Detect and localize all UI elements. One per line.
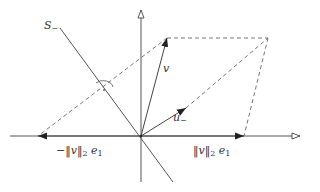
dashed-line-2 <box>38 38 167 136</box>
dashed-line-1 <box>244 38 268 136</box>
origin-point <box>140 135 142 137</box>
label-s-minus: S− <box>44 20 58 33</box>
label-u-minus: u− <box>173 112 187 125</box>
hyperplane-s-minus-line <box>60 28 173 182</box>
dashed-construction-lines <box>38 38 268 136</box>
label-norm-v-e1: ‖v‖2 e1 <box>193 145 230 158</box>
label-neg-norm-v-e1: −‖v‖2 e1 <box>56 145 103 158</box>
vector-v <box>141 38 167 136</box>
angle-dot <box>103 89 105 91</box>
dashed-line-3 <box>186 38 268 108</box>
label-v: v <box>163 63 169 74</box>
